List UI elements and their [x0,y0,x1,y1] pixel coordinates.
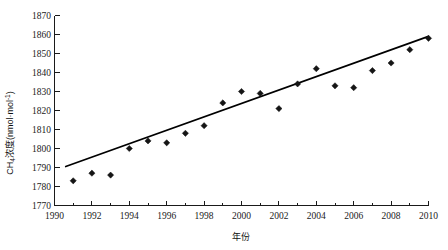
x-tick-label: 2008 [382,211,401,221]
y-tick-label: 1770 [32,201,51,211]
ch4-concentration-scatter-chart: CH4浓度(nmol·mol-1) 1870 1860 1850 1840 18… [0,0,448,250]
y-axis-title-suffix: ) [5,91,15,94]
y-tick-label: 1790 [32,163,51,173]
data-point [351,85,357,91]
data-point [220,100,226,106]
y-tick-label: 1780 [32,182,51,192]
x-tick-label: 1996 [157,211,176,221]
x-tick-label: 1992 [82,211,101,221]
trend-line [66,36,429,166]
data-point [425,35,431,41]
x-tick-label: 1998 [195,211,214,221]
x-tick-label: 2006 [344,211,363,221]
y-tick-label: 1830 [32,87,51,97]
x-tick-label: 2004 [307,211,326,221]
x-tick-label: 1994 [120,211,139,221]
y-axis-title-middle: 浓度(nmol·mol [4,100,15,158]
data-point [369,68,375,74]
data-point [276,106,282,112]
data-point [108,172,114,178]
x-tick-label: 2000 [232,211,251,221]
data-point [332,83,338,89]
data-point [70,178,76,184]
x-axis-title: 年份 [232,231,250,242]
y-axis-title: CH4浓度(nmol·mol-1) [4,91,16,174]
y-axis-title-prefix: CH [5,162,15,175]
data-point [89,170,95,176]
x-axis-ticks: 1990 1992 1994 1996 1998 2000 2002 2004 … [45,201,438,222]
data-point [407,47,413,53]
y-tick-label: 1810 [32,125,51,135]
data-point-markers [70,35,432,184]
y-tick-label: 1850 [32,49,51,59]
data-point [126,145,132,151]
chart-figure: CH4浓度(nmol·mol-1) 1870 1860 1850 1840 18… [0,0,448,250]
y-tick-label: 1860 [32,30,51,40]
y-tick-label: 1800 [32,144,51,154]
data-point [182,130,188,136]
x-tick-label: 2002 [269,211,288,221]
data-point [388,60,394,66]
data-point [313,66,319,72]
y-tick-label: 1870 [32,11,51,21]
data-point [201,123,207,129]
svg-text:CH4浓度(nmol·mol-1): CH4浓度(nmol·mol-1) [4,91,16,174]
x-tick-label: 2010 [419,211,438,221]
y-axis-ticks: 1870 1860 1850 1840 1830 1820 1810 1800 … [32,11,60,211]
data-point [238,88,244,94]
data-point [145,138,151,144]
y-tick-label: 1820 [32,106,51,116]
data-point [164,140,170,146]
x-tick-label: 1990 [45,211,64,221]
y-tick-label: 1840 [32,68,51,78]
